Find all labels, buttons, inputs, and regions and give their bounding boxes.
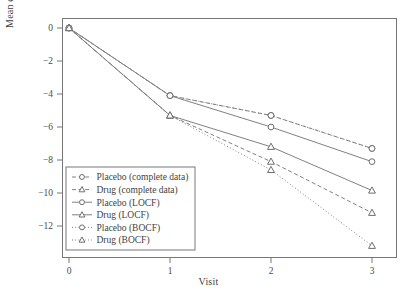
legend-label: Drug (BOCF) — [97, 235, 150, 246]
legend-label: Placebo (LOCF) — [97, 198, 160, 209]
legend-label: Drug (LOCF) — [97, 210, 150, 221]
data-point-triangle — [268, 166, 275, 172]
data-point-circle — [268, 124, 274, 130]
data-point-circle — [80, 200, 85, 205]
figure-container: 0−2−4−6−8−10−12 0123 Placebo (complete d… — [0, 0, 417, 298]
series-placebo-complete-data — [66, 25, 375, 151]
data-point-circle — [369, 159, 375, 165]
series-placebo-locf — [66, 25, 375, 164]
data-point-circle — [80, 175, 85, 180]
series-line — [69, 28, 372, 191]
x-tick-label: 2 — [269, 266, 274, 276]
series-line — [69, 28, 372, 148]
series-line — [69, 28, 372, 162]
chart-legend: Placebo (complete data)Drug (complete da… — [66, 167, 195, 250]
data-point-triangle — [268, 158, 275, 164]
y-tick-label: −4 — [43, 89, 53, 99]
y-tick-label: −2 — [43, 56, 53, 66]
x-tick-label: 3 — [370, 266, 375, 276]
legend-label: Placebo (complete data) — [97, 172, 189, 183]
data-point-circle — [167, 93, 173, 99]
data-point-circle — [268, 113, 274, 119]
series-placebo-bocf — [66, 25, 375, 151]
y-axis-ticks: 0−2−4−6−8−10−12 — [38, 23, 62, 231]
y-tick-label: −6 — [43, 122, 53, 132]
data-point-circle — [80, 225, 85, 230]
line-chart: 0−2−4−6−8−10−12 0123 Placebo (complete d… — [0, 0, 417, 298]
series-line — [69, 28, 372, 148]
y-axis-title: Mean change from baseline — [4, 0, 15, 60]
x-tick-label: 0 — [67, 266, 72, 276]
data-point-circle — [369, 146, 375, 152]
legend-label: Drug (complete data) — [97, 185, 178, 196]
y-tick-label: −10 — [38, 188, 53, 198]
y-tick-label: −8 — [43, 155, 53, 165]
data-point-triangle — [369, 242, 376, 248]
data-point-triangle — [369, 209, 376, 215]
y-tick-label: −12 — [38, 221, 53, 231]
y-tick-label: 0 — [48, 23, 53, 33]
legend-label: Placebo (BOCF) — [97, 223, 161, 234]
x-axis-ticks: 0123 — [67, 258, 375, 277]
x-axis-title: Visit — [0, 276, 417, 287]
x-tick-label: 1 — [168, 266, 173, 276]
